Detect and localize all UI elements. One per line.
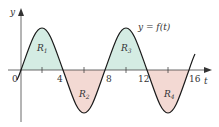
tick-label-12: 12 <box>138 74 149 84</box>
tick-label-0: 0 <box>12 74 18 84</box>
tick-label-8: 8 <box>106 74 112 84</box>
t-axis-arrow-icon <box>204 67 212 73</box>
curve-label: y = f(t) <box>137 22 171 32</box>
tick-label-4: 4 <box>57 74 63 84</box>
tick-label-16: 16 <box>189 74 201 84</box>
y-axis-arrow-icon <box>18 8 24 16</box>
graph: y t y = f(t) 0 4 8 12 16 R1 R2 R3 R4 <box>0 0 219 127</box>
t-axis-label: t <box>204 76 208 86</box>
y-axis-label: y <box>9 7 16 17</box>
